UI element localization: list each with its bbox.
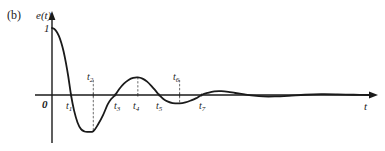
tick-label-t7: t7 (199, 101, 205, 111)
panel-label: (b) (7, 9, 21, 21)
tick-label-subscript: 5 (159, 105, 163, 113)
tick-label-subscript: 4 (136, 105, 140, 113)
tick-label-t4: t4 (133, 101, 139, 111)
origin-label: 0 (42, 99, 48, 110)
y-axis-label: e(t) (36, 10, 51, 21)
tick-label-subscript: 3 (117, 105, 121, 113)
tick-label-t2: t2 (87, 72, 93, 82)
tick-label-t1: t1 (66, 101, 72, 111)
tick-label-t5: t5 (156, 101, 162, 111)
tick-label-t6: t6 (173, 72, 179, 82)
tick-label-subscript: 6 (176, 76, 180, 84)
tick-label-t3: t3 (114, 101, 120, 111)
tick-label-subscript: 7 (202, 105, 206, 113)
damped-oscillation-plot (0, 0, 385, 151)
tick-label-subscript: 1 (69, 105, 73, 113)
figure-container: (b) e(t) t 0 1 t1t2t3t4t5t6t7 (0, 0, 385, 151)
tick-label-subscript: 2 (90, 76, 94, 84)
x-axis-label: t (364, 101, 367, 112)
curve-e-of-t (52, 28, 370, 132)
y-unit-label: 1 (44, 23, 50, 34)
y-axis (49, 11, 56, 143)
